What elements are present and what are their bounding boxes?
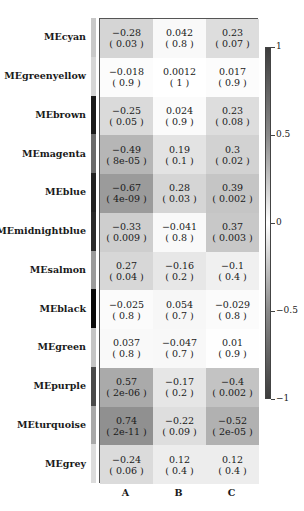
- cell-pvalue: ( 0.9 ): [112, 77, 141, 88]
- row-label: MEpurple: [33, 380, 86, 391]
- column-label: B: [152, 487, 205, 498]
- cell-pvalue: ( 0.8 ): [112, 310, 141, 321]
- cell-pvalue: ( 0.7 ): [165, 348, 194, 359]
- heatmap-cell: 0.042( 0.8 ): [153, 19, 206, 58]
- row-label: MEbrown: [35, 109, 86, 120]
- cell-pvalue: ( 0.002 ): [212, 387, 253, 398]
- cell-pvalue: ( 0.8 ): [112, 348, 141, 359]
- cell-pvalue: ( 0.1 ): [165, 155, 194, 166]
- heatmap-cell: −0.52( 2e-05 ): [206, 407, 259, 446]
- heatmap-cell: 0.23( 0.07 ): [206, 19, 259, 58]
- heatmap-cell: −0.28( 0.03 ): [100, 19, 153, 58]
- heatmap-cell: −0.047( 0.7 ): [153, 329, 206, 368]
- colorbar-tick: [271, 223, 275, 224]
- cell-correlation: −0.029: [215, 299, 250, 310]
- module-color-swatch: [91, 134, 96, 173]
- heatmap-cell: 0.01( 0.9 ): [206, 329, 259, 368]
- heatmap-cell: −0.24( 0.06 ): [100, 445, 153, 484]
- column-label: C: [205, 487, 258, 498]
- cell-pvalue: ( 0.009 ): [106, 232, 147, 243]
- heatmap-cell: −0.49( 8e-05 ): [100, 135, 153, 174]
- cell-pvalue: ( 0.07 ): [215, 38, 250, 49]
- cell-pvalue: ( 1 ): [170, 77, 190, 88]
- heatmap-grid: −0.28( 0.03 )0.042( 0.8 )0.23( 0.07 )−0.…: [99, 18, 258, 483]
- heatmap-cell: −0.1( 0.4 ): [206, 252, 259, 291]
- cell-pvalue: ( 0.4 ): [165, 465, 194, 476]
- module-color-swatch: [91, 328, 96, 367]
- cell-pvalue: ( 0.4 ): [218, 271, 247, 282]
- cell-correlation: −0.1: [221, 260, 244, 271]
- module-color-swatch: [91, 212, 96, 251]
- cell-pvalue: ( 0.03 ): [162, 193, 197, 204]
- cell-correlation: −0.025: [109, 299, 144, 310]
- cell-correlation: −0.25: [112, 105, 141, 116]
- cell-correlation: −0.041: [162, 221, 197, 232]
- cell-correlation: −0.33: [112, 221, 141, 232]
- heatmap-cell: −0.17( 0.2 ): [153, 368, 206, 407]
- row-label: MEblue: [45, 186, 86, 197]
- cell-correlation: 0.57: [116, 376, 137, 387]
- cell-pvalue: ( 0.4 ): [218, 465, 247, 476]
- row-label: MEblack: [39, 303, 86, 314]
- heatmap-cell: 0.19( 0.1 ): [153, 135, 206, 174]
- cell-pvalue: ( 0.02 ): [215, 155, 250, 166]
- cell-correlation: 0.037: [113, 337, 140, 348]
- cell-correlation: 0.054: [166, 299, 193, 310]
- cell-correlation: 0.28: [169, 182, 190, 193]
- colorbar-tick-label: 0.5: [276, 129, 290, 139]
- heatmap-cell: 0.12( 0.4 ): [206, 445, 259, 484]
- cell-pvalue: ( 0.8 ): [218, 310, 247, 321]
- heatmap-cell: −0.025( 0.8 ): [100, 290, 153, 329]
- cell-pvalue: ( 0.7 ): [165, 310, 194, 321]
- heatmap-cell: 0.57( 2e-06 ): [100, 368, 153, 407]
- row-label: MEmidnightblue: [0, 225, 86, 236]
- cell-pvalue: ( 0.06 ): [109, 465, 144, 476]
- cell-correlation: 0.37: [222, 221, 243, 232]
- cell-correlation: 0.23: [222, 27, 243, 38]
- row-label: MEgreenyellow: [4, 70, 86, 81]
- module-color-swatch: [91, 57, 96, 96]
- module-color-swatch: [91, 18, 96, 57]
- cell-pvalue: ( 2e-11 ): [106, 426, 146, 437]
- heatmap-cell: −0.041( 0.8 ): [153, 213, 206, 252]
- cell-pvalue: ( 0.9 ): [165, 116, 194, 127]
- cell-pvalue: ( 0.09 ): [162, 426, 197, 437]
- heatmap-cell: 0.28( 0.03 ): [153, 174, 206, 213]
- heatmap-cell: −0.22( 0.09 ): [153, 407, 206, 446]
- cell-pvalue: ( 8e-05 ): [106, 155, 146, 166]
- cell-correlation: 0.12: [222, 454, 243, 465]
- row-label: MEmagenta: [22, 148, 86, 159]
- cell-correlation: 0.12: [169, 454, 190, 465]
- colorbar-tick: [271, 311, 275, 312]
- column-label: A: [99, 487, 152, 498]
- cell-correlation: 0.017: [219, 66, 246, 77]
- heatmap-cell: 0.12( 0.4 ): [153, 445, 206, 484]
- heatmap-cell: −0.029( 0.8 ): [206, 290, 259, 329]
- cell-correlation: 0.19: [169, 144, 190, 155]
- cell-correlation: −0.4: [221, 376, 244, 387]
- cell-pvalue: ( 2e-05 ): [212, 426, 252, 437]
- module-color-swatch: [91, 406, 96, 445]
- cell-pvalue: ( 0.08 ): [215, 116, 250, 127]
- cell-correlation: 0.042: [166, 27, 193, 38]
- heatmap-cell: −0.33( 0.009 ): [100, 213, 153, 252]
- cell-correlation: −0.17: [165, 376, 194, 387]
- cell-pvalue: ( 2e-06 ): [106, 387, 146, 398]
- cell-correlation: −0.67: [112, 182, 141, 193]
- heatmap-cell: −0.16( 0.2 ): [153, 252, 206, 291]
- cell-pvalue: ( 0.05 ): [109, 116, 144, 127]
- cell-correlation: 0.39: [222, 182, 243, 193]
- cell-pvalue: ( 0.8 ): [165, 232, 194, 243]
- heatmap-cell: 0.024( 0.9 ): [153, 97, 206, 136]
- cell-correlation: −0.018: [109, 66, 144, 77]
- cell-pvalue: ( 0.2 ): [165, 387, 194, 398]
- row-label: MEturquoise: [17, 419, 86, 430]
- cell-pvalue: ( 0.8 ): [165, 38, 194, 49]
- colorbar-tick: [271, 399, 275, 400]
- row-label: MEsalmon: [30, 264, 86, 275]
- cell-pvalue: ( 0.9 ): [218, 77, 247, 88]
- cell-pvalue: ( 0.9 ): [218, 348, 247, 359]
- cell-correlation: −0.22: [165, 415, 194, 426]
- module-color-swatch: [91, 444, 96, 483]
- module-color-swatch: [91, 173, 96, 212]
